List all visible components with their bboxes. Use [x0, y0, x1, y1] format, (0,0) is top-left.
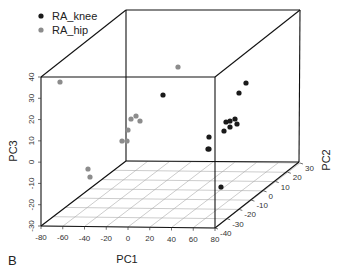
z-tick-label: 40: [27, 72, 36, 81]
legend-label-ra-knee: RA_knee: [52, 10, 97, 22]
point-ra-knee: [227, 124, 232, 129]
y-tick-mark: [264, 191, 267, 192]
grid-line-y: [102, 180, 276, 182]
legend: RA_knee RA_hip: [38, 10, 97, 36]
x-tick-label: 80: [211, 235, 220, 244]
point-ra-hip: [124, 138, 129, 143]
x-axis-label: PC1: [116, 253, 137, 265]
y-tick-mark: [276, 182, 279, 183]
point-ra-hip: [128, 116, 133, 121]
y-tick-mark: [227, 219, 230, 220]
point-ra-knee: [205, 146, 210, 151]
z-axis-label: PC3: [7, 140, 19, 161]
y-tick-mark: [251, 200, 254, 201]
box-edge: [126, 161, 299, 162]
x-tick-label: 60: [189, 235, 198, 244]
grid-line-x: [63, 161, 148, 226]
floor-grid: [41, 161, 300, 228]
point-ra-knee: [234, 121, 239, 126]
x-tick-label: 20: [145, 234, 154, 243]
x-tick-label: -40: [79, 234, 91, 243]
legend-label-ra-hip: RA_hip: [52, 24, 88, 36]
point-ra-hip: [57, 79, 62, 84]
y-tick-label: -30: [232, 220, 244, 229]
z-tick-label: 0: [27, 159, 36, 164]
point-ra-hip: [125, 127, 130, 132]
box-edge: [299, 10, 300, 162]
point-ra-knee: [206, 134, 211, 139]
y-tick-label: 30: [305, 164, 314, 173]
point-ra-hip: [119, 138, 124, 143]
x-tick-label: 0: [126, 234, 131, 243]
grid-line-x: [106, 162, 191, 227]
grid-line-y: [77, 198, 251, 200]
grid-line-x: [85, 162, 170, 227]
point-ra-hip: [85, 166, 90, 171]
panel-label: B: [8, 253, 17, 268]
box-edge: [41, 161, 126, 226]
y-tick-mark: [288, 172, 291, 173]
z-tick-label: -20: [27, 198, 36, 210]
point-ra-knee: [221, 128, 226, 133]
y-axis-label: PC2: [320, 149, 332, 170]
x-tick-label: -20: [100, 234, 112, 243]
z-tick-label: 10: [27, 136, 36, 145]
legend-marker-ra-knee: [38, 13, 43, 18]
grid-line-y: [53, 217, 227, 219]
y-tick-label: -40: [220, 229, 232, 238]
z-tick-label: 20: [27, 115, 36, 124]
y-tick-label: -10: [256, 201, 268, 210]
point-ra-knee: [218, 184, 223, 189]
point-ra-hip: [133, 113, 138, 118]
y-tick-mark: [239, 209, 242, 210]
point-ra-knee: [160, 92, 165, 97]
legend-marker-ra-hip: [38, 27, 43, 32]
point-ra-hip: [175, 64, 180, 69]
point-ra-knee: [223, 119, 228, 124]
point-ra-knee: [236, 90, 241, 95]
grid-line-y: [114, 170, 288, 172]
point-ra-knee: [243, 80, 248, 85]
z-tick-label: 30: [27, 93, 36, 102]
y-tick-label: 0: [269, 192, 274, 201]
y-tick-mark: [215, 228, 218, 229]
z-tick-label: -30: [27, 220, 36, 232]
point-ra-hip: [87, 174, 92, 179]
pca-3d-scatter-chart: -80-60-40-20020406080-30-20-10010203040-…: [0, 0, 339, 270]
point-ra-hip: [137, 118, 142, 123]
z-tick-label: -10: [27, 177, 36, 189]
point-ra-knee: [232, 116, 237, 121]
grid-line-x: [150, 162, 235, 227]
x-tick-label: 40: [167, 235, 176, 244]
plot-box: [41, 10, 300, 228]
y-tick-label: -20: [244, 210, 256, 219]
grid-line-x: [193, 163, 278, 228]
grid-line-y: [65, 207, 239, 209]
y-tick-mark: [300, 163, 303, 164]
x-tick-label: -60: [57, 233, 69, 242]
x-tick-label: -80: [35, 233, 47, 242]
grid-line-y: [90, 189, 264, 191]
y-tick-label: 20: [293, 173, 302, 182]
grid-line-x: [128, 162, 213, 227]
y-tick-label: 10: [281, 183, 290, 192]
box-edge: [215, 10, 300, 77]
